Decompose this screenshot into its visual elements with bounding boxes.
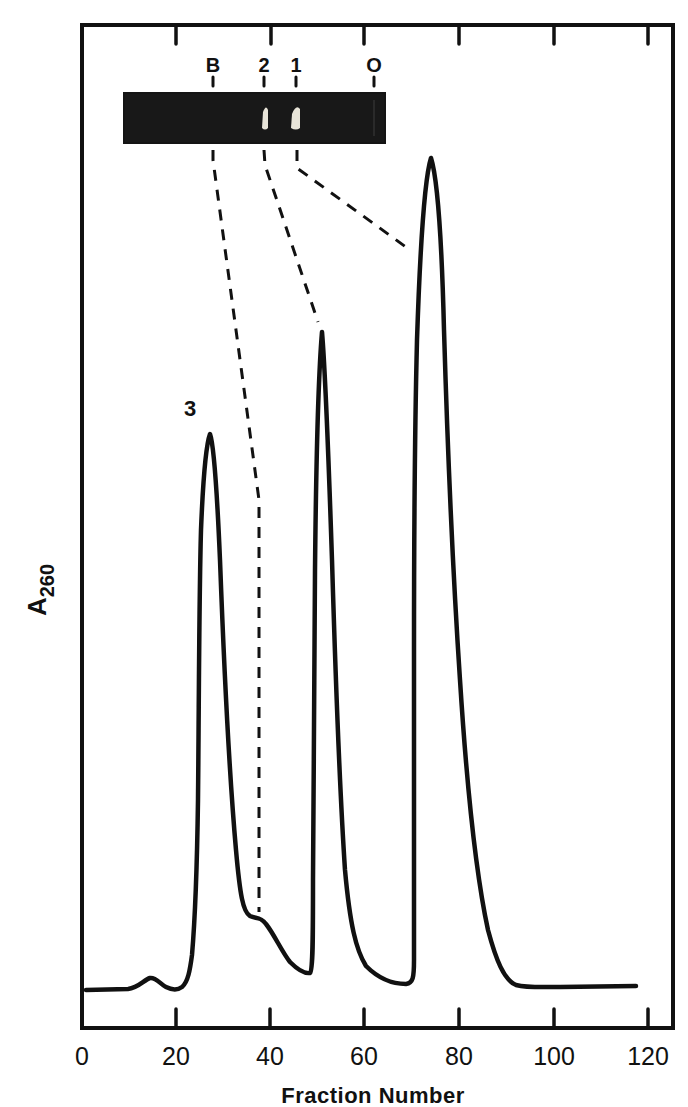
y-axis-title-subscript: 260 bbox=[36, 564, 58, 597]
x-tick-label-120: 120 bbox=[627, 1042, 669, 1070]
x-tick-label-0: 0 bbox=[75, 1042, 89, 1070]
gel-inset: B 2 1 O bbox=[123, 54, 386, 144]
y-axis-title-main: A bbox=[22, 597, 52, 616]
x-tick-label-80: 80 bbox=[445, 1042, 473, 1070]
x-tick-label-40: 40 bbox=[256, 1042, 284, 1070]
gel-label-O: O bbox=[366, 54, 382, 76]
x-axis-ticks-bottom bbox=[176, 1009, 648, 1027]
plot-frame bbox=[82, 25, 673, 1028]
peak-label-3: 3 bbox=[184, 396, 196, 421]
x-tick-label-100: 100 bbox=[533, 1042, 575, 1070]
x-tick-label-60: 60 bbox=[350, 1042, 378, 1070]
gel-label-2: 2 bbox=[258, 54, 269, 76]
chromatogram-chart: 0 20 40 60 80 100 120 Fraction Number A2… bbox=[0, 0, 688, 1107]
x-tick-label-20: 20 bbox=[162, 1042, 190, 1070]
connector-1 bbox=[297, 150, 410, 250]
svg-text:A260: A260 bbox=[22, 564, 58, 616]
x-axis-ticks-top bbox=[176, 26, 648, 44]
connector-2 bbox=[264, 150, 318, 322]
gel-label-1: 1 bbox=[290, 54, 301, 76]
x-tick-labels: 0 20 40 60 80 100 120 bbox=[75, 1042, 669, 1070]
gel-label-B: B bbox=[206, 54, 220, 76]
elution-curve bbox=[86, 158, 636, 990]
y-axis-title: A260 bbox=[22, 564, 58, 616]
frame-rect bbox=[82, 25, 673, 1028]
x-axis-title: Fraction Number bbox=[281, 1083, 465, 1107]
